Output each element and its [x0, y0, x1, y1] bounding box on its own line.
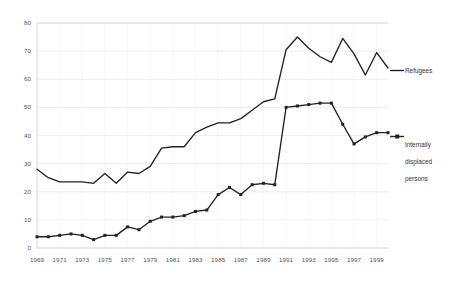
x-tick-label: 1987	[229, 256, 253, 263]
legend-idp-line-3: persons	[405, 175, 428, 182]
x-tick-label: 1975	[93, 256, 117, 263]
x-tick-label: 1973	[70, 256, 94, 263]
y-tick-label: 10	[13, 216, 31, 223]
y-tick-label: 40	[13, 132, 31, 139]
y-tick-label: 20	[13, 188, 31, 195]
y-tick-label: 0	[13, 244, 31, 251]
gridlines	[37, 23, 388, 248]
x-tick-label: 1971	[48, 256, 72, 263]
y-tick-label: 60	[13, 75, 31, 82]
x-tick-label: 1997	[342, 256, 366, 263]
chart-container: 01020304050607080 1969197119731975197719…	[0, 0, 451, 285]
x-tick-label: 1993	[297, 256, 321, 263]
x-tick-label: 1991	[274, 256, 298, 263]
x-tick-label: 1989	[251, 256, 275, 263]
x-tick-label: 1985	[206, 256, 230, 263]
x-tick-label: 1999	[365, 256, 389, 263]
y-tick-label: 50	[13, 103, 31, 110]
legend-idp-line-2: displaced	[405, 158, 432, 165]
x-tick-label: 1995	[319, 256, 343, 263]
y-tick-label: 30	[13, 160, 31, 167]
y-tick-label: 70	[13, 47, 31, 54]
y-tick-label: 80	[13, 19, 31, 26]
legend-idp-line-1: Internally	[405, 141, 431, 148]
x-tick-label: 1981	[161, 256, 185, 263]
x-tick-label: 1983	[184, 256, 208, 263]
chart-plot-area	[0, 0, 451, 285]
x-tick-label: 1977	[116, 256, 140, 263]
legend-label-internally-displaced-persons: Internally displaced persons	[405, 133, 432, 183]
x-tick-label: 1969	[25, 256, 49, 263]
legend-label-refugees: Refugees	[405, 67, 432, 75]
x-tick-label: 1979	[138, 256, 162, 263]
legend-marks	[390, 71, 404, 139]
